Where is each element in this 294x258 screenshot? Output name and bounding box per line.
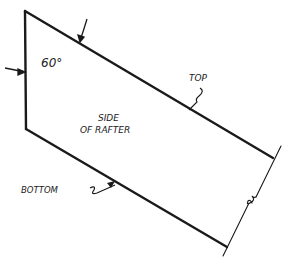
rafter-drawing: 60° TOP SIDE OF RAFTER BOTTOM <box>0 0 294 258</box>
angle-label: 60° <box>41 56 62 70</box>
top-label: TOP <box>189 73 208 83</box>
dimension-line <box>223 146 281 256</box>
side-label-line1: SIDE <box>98 113 119 123</box>
left-edge <box>25 11 26 129</box>
rafter-diagram: 60° TOP SIDE OF RAFTER BOTTOM <box>0 0 294 258</box>
top-leader-icon <box>189 88 202 110</box>
rafter-outline <box>25 11 273 247</box>
bottom-label: BOTTOM <box>21 185 59 195</box>
side-label-line2: OF RAFTER <box>80 125 130 135</box>
top-edge <box>25 11 273 158</box>
